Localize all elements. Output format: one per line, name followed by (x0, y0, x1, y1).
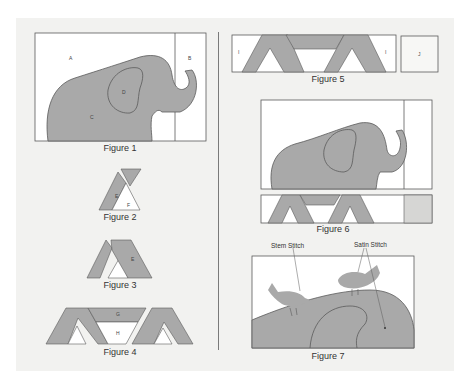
piece-label-e: E (115, 193, 118, 199)
figure-6-caption: Figure 6 (303, 224, 363, 234)
figure-7-drawing (252, 248, 414, 348)
piece-label-a: A (69, 55, 72, 61)
figure-1-caption: Figure 1 (90, 143, 150, 153)
stem-stitch-annotation: Stem Stitch (271, 242, 304, 249)
figure-5-caption: Figure 5 (298, 74, 358, 84)
figure-4-caption: Figure 4 (90, 347, 150, 357)
piece-label-c: C (90, 114, 94, 120)
piece-label-i-right: I (385, 49, 386, 55)
figure-5-drawing (232, 35, 438, 72)
figure-3-caption: Figure 3 (90, 280, 150, 290)
figure-3-drawing (87, 240, 152, 278)
piece-label-f: F (127, 202, 130, 208)
piece-label-d: D (122, 89, 126, 95)
piece-label-b: B (188, 55, 191, 61)
piece-label-g: G (116, 311, 120, 317)
figure-7-caption: Figure 7 (298, 351, 358, 361)
figure-2-caption: Figure 2 (90, 212, 150, 222)
satin-stitch-annotation: Satin Stitch (354, 241, 387, 248)
piece-label-i-left: I (238, 49, 239, 55)
column-divider (218, 32, 219, 350)
figure-6-drawing (261, 100, 432, 223)
piece-label-j: J (418, 51, 421, 57)
figure-2-drawing (99, 169, 141, 210)
piece-label-h: H (116, 330, 120, 336)
piece-label-e-fig3: E (131, 256, 134, 262)
figure-1-drawing (35, 33, 206, 141)
